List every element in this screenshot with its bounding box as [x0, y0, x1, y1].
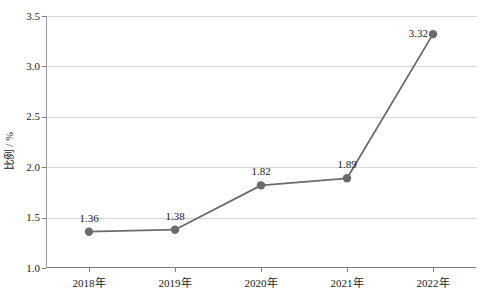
series-polyline: [89, 34, 433, 232]
data-point-label: 1.38: [145, 211, 205, 222]
data-point-marker[interactable]: [429, 30, 437, 38]
data-point-marker[interactable]: [171, 225, 179, 233]
series-markers: [85, 30, 437, 236]
data-point-label: 1.89: [317, 159, 377, 170]
data-point-marker[interactable]: [257, 181, 265, 189]
line-chart-figure: 比例 / % 1.01.52.02.53.03.5 2018年2019年2020…: [0, 0, 489, 302]
data-point-marker[interactable]: [85, 228, 93, 236]
data-point-label: 1.82: [231, 166, 291, 177]
data-point-marker[interactable]: [343, 174, 351, 182]
data-point-label: 3.32: [368, 28, 428, 39]
data-series-line: [0, 0, 489, 302]
data-point-label: 1.36: [59, 213, 119, 224]
